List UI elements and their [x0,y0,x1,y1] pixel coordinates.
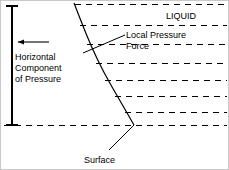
surface-curve [74,3,134,125]
diagram-canvas [1,1,229,170]
liquid-label: LIQUID [166,11,196,22]
pressure-diagram-figure: Horizontal Component of Pressure LIQUID … [0,0,229,170]
pressure-arrow-head [18,39,24,44]
leader-line [109,125,134,150]
surface-label: Surface [84,155,115,166]
horizontal-component-label: Horizontal Component of Pressure [15,52,62,85]
local-pressure-force-label: Local Pressure Force [126,30,186,52]
